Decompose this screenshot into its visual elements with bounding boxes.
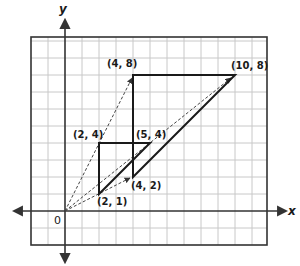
- label-point-5-4: (5, 4): [136, 129, 166, 140]
- label-point-2-1: (2, 1): [97, 196, 127, 207]
- label-point-4-2: (4, 2): [131, 180, 161, 191]
- label-point-10-8: (10, 8): [231, 60, 268, 71]
- label-point-4-8: (4, 8): [107, 58, 137, 69]
- x-axis-label: x: [287, 204, 297, 218]
- y-axis-label: y: [59, 2, 68, 16]
- origin-label: 0: [54, 214, 61, 227]
- label-point-2-4: (2, 4): [73, 129, 103, 140]
- coordinate-plane-diagram: x y 0 (4, 8) (10, 8) (2, 4) (5, 4) (4, 2…: [0, 0, 300, 266]
